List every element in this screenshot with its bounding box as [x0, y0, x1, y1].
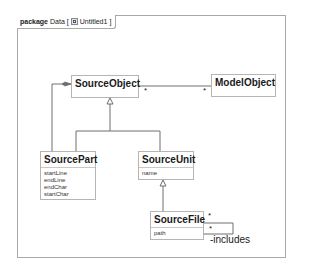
role-label: -includes: [210, 236, 250, 244]
class-source-part[interactable]: SourcePart startLine endLine endChar sta…: [40, 151, 96, 200]
class-name: SourceObject: [72, 76, 138, 91]
generalization-triangle-icon: [160, 180, 166, 186]
multiplicity-label: *: [203, 87, 206, 95]
class-name: SourceUnit: [139, 152, 193, 167]
multiplicity-label: *: [209, 225, 212, 233]
multiplicity-label: *: [208, 212, 211, 220]
attribute: startChar: [44, 191, 92, 198]
class-name: SourceFile: [151, 212, 203, 227]
attribute: endLine: [44, 177, 92, 184]
attribute: path: [154, 230, 200, 237]
containment-line[interactable]: [52, 84, 71, 151]
attribute: startLine: [44, 170, 92, 177]
filled-diamond-icon: [62, 82, 71, 86]
class-name: ModelObject: [212, 75, 275, 90]
class-source-unit[interactable]: SourceUnit name: [138, 151, 194, 180]
multiplicity-label: *: [144, 87, 147, 95]
attribute-compartment: startLine endLine endChar startChar: [41, 167, 95, 201]
class-source-file[interactable]: SourceFile path: [150, 211, 204, 240]
attribute: endChar: [44, 184, 92, 191]
attribute: name: [142, 170, 190, 177]
attribute-compartment: path: [151, 227, 203, 240]
class-source-object[interactable]: SourceObject: [71, 75, 139, 98]
attribute-compartment: name: [139, 167, 193, 180]
class-name: SourcePart: [41, 152, 95, 167]
class-model-object[interactable]: ModelObject: [211, 74, 276, 97]
generalization-triangle-icon: [107, 98, 113, 104]
